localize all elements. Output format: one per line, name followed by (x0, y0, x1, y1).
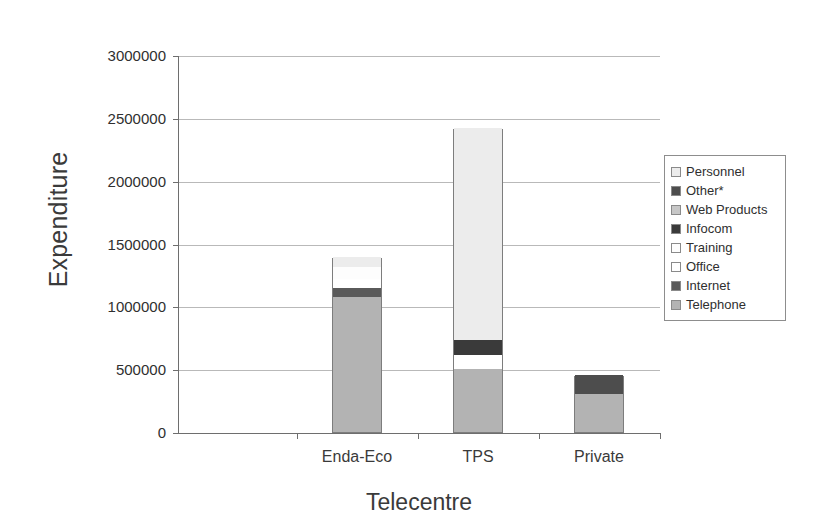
bar-segment-telephone[interactable] (454, 369, 502, 432)
y-tick-label: 500000 (88, 361, 166, 378)
y-tick-label: 2500000 (88, 110, 166, 127)
legend-label: Other* (686, 184, 724, 197)
plot-area: 3000000250000020000001500000100000050000… (178, 56, 660, 433)
bar-segment-telephone[interactable] (333, 297, 381, 432)
legend-item-training[interactable]: Training (671, 238, 780, 257)
bar-segment-infocom[interactable] (454, 340, 502, 354)
gridline (178, 307, 660, 308)
bar-enda-eco[interactable] (332, 258, 382, 433)
bar-segment-other-[interactable] (575, 375, 623, 394)
gridline (178, 119, 660, 120)
gridline (178, 245, 660, 246)
bar-private[interactable] (574, 376, 624, 433)
bar-segment-office[interactable] (454, 355, 502, 369)
legend-swatch-icon (671, 243, 681, 253)
legend-item-personnel[interactable]: Personnel (671, 162, 780, 181)
gridline (178, 56, 660, 57)
legend-item-internet[interactable]: Internet (671, 276, 780, 295)
x-axis-line (178, 433, 661, 434)
legend-label: Telephone (686, 298, 746, 311)
legend-item-telephone[interactable]: Telephone (671, 295, 780, 314)
legend-swatch-icon (671, 205, 681, 215)
legend-swatch-icon (671, 262, 681, 272)
expenditure-stacked-bar-chart: Expenditure Telecentre 30000002500000200… (0, 0, 817, 529)
category-label: Private (519, 448, 679, 466)
legend-label: Infocom (686, 222, 732, 235)
legend-swatch-icon (671, 300, 681, 310)
legend-swatch-icon (671, 186, 681, 196)
legend-label: Internet (686, 279, 730, 292)
gridline (178, 182, 660, 183)
legend-item-office[interactable]: Office (671, 257, 780, 276)
legend-item-web-products[interactable]: Web Products (671, 200, 780, 219)
legend-swatch-icon (671, 224, 681, 234)
y-tick-label: 1500000 (88, 236, 166, 253)
y-axis-line (178, 56, 179, 434)
legend-swatch-icon (671, 281, 681, 291)
bar-segment-internet[interactable] (333, 288, 381, 297)
y-tick-label: 1000000 (88, 298, 166, 315)
bar-tps[interactable] (453, 129, 503, 433)
legend-label: Office (686, 260, 720, 273)
legend-label: Personnel (686, 165, 745, 178)
bar-segment-training[interactable] (333, 267, 381, 279)
bar-segment-personnel[interactable] (333, 257, 381, 268)
bar-segment-office[interactable] (333, 279, 381, 288)
x-axis-title: Telecentre (178, 489, 660, 516)
y-tick-label: 0 (88, 424, 166, 441)
y-axis-title: Expenditure (44, 100, 73, 340)
legend-item-other-[interactable]: Other* (671, 181, 780, 200)
gridline (178, 370, 660, 371)
y-tick-label: 2000000 (88, 173, 166, 190)
legend-label: Web Products (686, 203, 767, 216)
y-tick-label: 3000000 (88, 47, 166, 64)
bar-segment-telephone[interactable] (575, 394, 623, 432)
legend-label: Training (686, 241, 732, 254)
chart-legend: PersonnelOther*Web ProductsInfocomTraini… (664, 155, 786, 321)
legend-swatch-icon (671, 167, 681, 177)
bar-segment-personnel[interactable] (454, 128, 502, 340)
legend-item-infocom[interactable]: Infocom (671, 219, 780, 238)
